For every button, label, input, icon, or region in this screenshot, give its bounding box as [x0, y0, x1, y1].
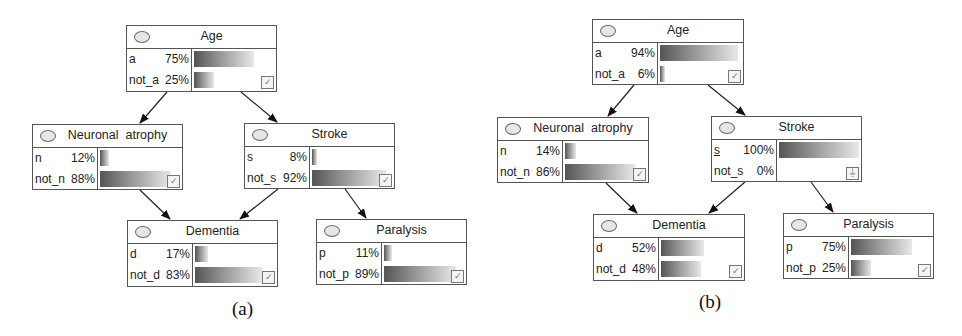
edge-neuronal-dementia — [140, 190, 170, 219]
edge-age-neuronal — [140, 92, 167, 123]
node-title: Dementia — [152, 224, 273, 238]
state-pct: 0% — [757, 161, 774, 182]
state-name: p — [319, 243, 326, 264]
node-dementia[interactable]: Dementia d52% not_d48% ✓ — [593, 214, 745, 281]
node-oval-icon — [324, 225, 340, 237]
state-name: not_p — [319, 264, 349, 285]
state-pct: 6% — [638, 64, 655, 85]
probability-bar — [312, 170, 386, 186]
evidence-set-icon[interactable]: ⏚ — [846, 167, 859, 180]
probability-bar — [384, 266, 456, 282]
node-neuronal-atrophy[interactable]: Neuronal atrophy n12% not_n88% ✓ — [32, 124, 183, 190]
checkmark-icon[interactable]: ✓ — [167, 175, 180, 188]
state-name: not_d — [596, 259, 626, 280]
state-name: p — [786, 237, 793, 258]
state-name: not_s — [714, 161, 743, 182]
checkmark-icon[interactable]: ✓ — [262, 271, 275, 284]
probability-bar — [851, 260, 871, 276]
edge-stroke-dementia — [709, 182, 745, 213]
probability-bar — [312, 149, 317, 165]
probability-bar — [384, 245, 392, 261]
edge-age-stroke — [708, 85, 745, 115]
node-oval-icon — [252, 129, 268, 141]
node-paralysis[interactable]: Paralysis p75% not_p25% ✓ — [783, 213, 934, 279]
checkmark-icon[interactable]: ✓ — [379, 174, 392, 187]
checkmark-icon[interactable]: ✓ — [728, 70, 741, 83]
state-pct: 94% — [631, 43, 655, 64]
state-name: n — [35, 148, 42, 169]
node-title: Paralysis — [808, 217, 929, 231]
state-pct: 25% — [822, 258, 846, 279]
probability-bar — [100, 150, 109, 166]
probability-bar — [851, 239, 912, 255]
state-pct: 48% — [632, 259, 656, 280]
state-pct: 8% — [290, 147, 307, 168]
checkmark-icon[interactable]: ✓ — [261, 76, 274, 89]
state-pct: 12% — [71, 148, 95, 169]
panel-caption: (b) — [699, 291, 721, 313]
node-title: Stroke — [269, 127, 390, 141]
state-pct: 25% — [165, 70, 189, 91]
state-pct: 89% — [355, 264, 379, 285]
node-oval-icon — [40, 130, 56, 142]
node-age[interactable]: Age a94% not_a6% ✓ — [592, 19, 744, 85]
probability-bar — [195, 267, 262, 283]
node-paralysis[interactable]: Paralysis p11% not_p89% ✓ — [316, 219, 467, 285]
probability-bar — [195, 246, 208, 262]
node-age[interactable]: Age a75% not_a25% ✓ — [126, 25, 277, 92]
node-title: Neuronal atrophy — [57, 128, 178, 142]
state-pct: 14% — [536, 141, 560, 162]
checkmark-icon[interactable]: ✓ — [729, 265, 742, 278]
state-name: not_a — [595, 64, 625, 85]
state-name: s — [247, 147, 253, 168]
probability-bar — [779, 142, 859, 158]
state-pct: 86% — [536, 162, 560, 183]
state-name: not_s — [247, 168, 276, 189]
probability-bar — [660, 45, 738, 61]
node-title: Paralysis — [341, 223, 462, 237]
state-name: not_n — [500, 162, 530, 183]
node-oval-icon — [719, 122, 735, 134]
state-pct: 83% — [166, 265, 190, 286]
node-title: Age — [151, 29, 272, 43]
edge-stroke-paralysis — [811, 182, 833, 212]
state-name: not_n — [35, 169, 65, 190]
node-oval-icon — [600, 25, 616, 37]
edge-stroke-dementia — [240, 189, 278, 219]
state-name: a — [129, 49, 136, 70]
node-stroke[interactable]: Stroke s100% not_s0% ⏚ — [711, 116, 862, 182]
node-oval-icon — [505, 123, 521, 135]
edge-age-neuronal — [608, 85, 634, 116]
state-pct: 75% — [165, 49, 189, 70]
node-title: Dementia — [618, 218, 740, 232]
state-name: not_p — [786, 258, 816, 279]
node-dementia[interactable]: Dementia d17% not_d83% ✓ — [127, 220, 278, 287]
probability-bar — [565, 164, 635, 180]
checkmark-icon[interactable]: ✓ — [451, 270, 464, 283]
state-pct: 75% — [822, 237, 846, 258]
checkmark-icon[interactable]: ✓ — [918, 264, 931, 277]
probability-bar — [100, 171, 171, 187]
node-stroke[interactable]: Stroke s8% not_s92% ✓ — [244, 123, 395, 189]
node-title: Age — [617, 23, 739, 37]
checkmark-icon[interactable]: ✓ — [633, 168, 646, 181]
state-pct: 92% — [283, 168, 307, 189]
node-oval-icon — [791, 219, 807, 231]
probability-bar — [660, 66, 665, 82]
state-pct: 11% — [356, 243, 379, 264]
panel-caption: (a) — [232, 298, 253, 320]
node-title: Neuronal atrophy — [522, 121, 644, 135]
probability-bar — [194, 51, 254, 67]
edge-age-stroke — [241, 92, 277, 122]
node-title: Stroke — [736, 120, 857, 134]
probability-bar — [661, 261, 701, 277]
state-name: a — [595, 43, 602, 64]
state-name: d — [130, 244, 137, 265]
node-neuronal-atrophy[interactable]: Neuronal atrophy n14% not_n86% ✓ — [497, 117, 649, 183]
state-pct: 100% — [743, 140, 774, 161]
state-name: not_d — [130, 265, 160, 286]
probability-bar — [565, 143, 576, 159]
node-oval-icon — [134, 31, 150, 43]
state-pct: 88% — [71, 169, 95, 190]
node-oval-icon — [601, 220, 617, 232]
